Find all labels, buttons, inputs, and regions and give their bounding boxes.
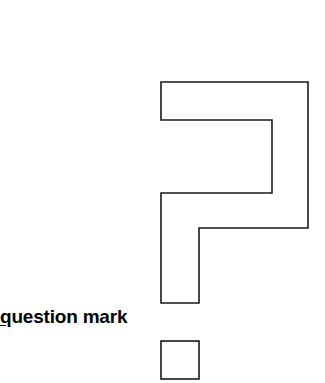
diagram-canvas: question mark <box>0 0 325 383</box>
caption-remaining-text: uestion mark <box>11 306 127 327</box>
caption-mnemonic-letter: q <box>0 306 11 327</box>
question-mark-dot-shape <box>161 341 199 379</box>
caption-label: question mark <box>0 306 127 328</box>
question-mark-body-shape <box>161 82 308 303</box>
